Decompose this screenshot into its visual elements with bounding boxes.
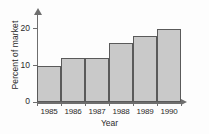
x-tick-3 <box>109 102 110 106</box>
bar-1986 <box>61 58 85 102</box>
x-tick-label-1988: 1988 <box>108 107 134 116</box>
x-tick-label-1987: 1987 <box>84 107 110 116</box>
bar-1989 <box>133 36 157 102</box>
x-tick-label-1990: 1990 <box>156 107 182 116</box>
y-axis-arrow-icon <box>34 8 42 15</box>
bar-1990 <box>157 29 181 103</box>
bar-1988 <box>109 43 133 102</box>
bar-1987 <box>85 58 109 102</box>
x-tick-4 <box>133 102 134 106</box>
y-tick-label-0: 0 <box>16 97 30 106</box>
x-tick-2 <box>85 102 86 106</box>
x-tick-5 <box>157 102 158 106</box>
y-axis-title: Percent of market <box>10 14 20 96</box>
x-tick-label-1986: 1986 <box>60 107 86 116</box>
y-tick-20 <box>33 28 38 29</box>
bar-1985 <box>37 66 61 103</box>
x-tick-0 <box>37 102 38 106</box>
bar-chart: 01020 198519861987198819891990 Percent o… <box>0 0 209 134</box>
x-axis-title: Year <box>37 118 182 128</box>
x-tick-1 <box>61 102 62 106</box>
x-tick-label-1985: 1985 <box>36 107 62 116</box>
x-tick-label-1989: 1989 <box>132 107 158 116</box>
x-tick-6 <box>181 102 182 106</box>
